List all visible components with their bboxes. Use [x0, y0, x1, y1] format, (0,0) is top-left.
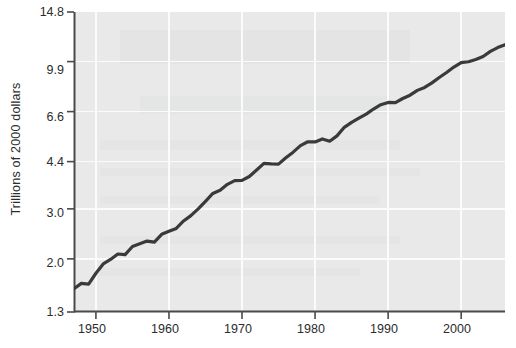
chart-figure: Trillions of 2000 dollars 14.8 9.9 6.6 4…: [0, 0, 516, 348]
x-axis-ticks: [96, 312, 461, 319]
y-axis-ticks: [67, 12, 74, 312]
chart-canvas: [0, 0, 516, 348]
